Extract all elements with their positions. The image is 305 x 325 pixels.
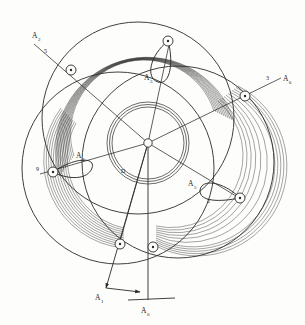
label-right-loop-index: 2 [207,198,210,204]
label-bottom-center: A 0 [141,306,150,317]
label-bottom-left-sub: 1 [101,299,104,304]
central-hub[interactable] [144,139,152,147]
figure-container: A 2 5 A 6 3 A 1 A 0 9 2 [0,0,305,325]
label-bottom-center-sub: 0 [147,312,150,317]
loop-label-top-sub: 3 [150,79,153,84]
node-n3[interactable] [240,91,250,101]
label-inner-ring: D [121,168,126,174]
node-n6[interactable] [115,239,125,249]
label-upper-left: A 2 [32,31,41,42]
diagonal-axis-arrow [106,143,148,288]
vertical-axis-tick [128,298,175,300]
axis-arrow-group [106,143,175,300]
label-upper-left-index: 5 [44,48,47,54]
label-right: A 6 [283,74,292,85]
loop-label-right: A 5 [188,179,197,190]
label-bottom-left: A 1 [95,293,104,304]
epicyclic-ring-diagram: A 2 5 A 6 3 A 1 A 0 9 2 [0,0,305,325]
node-n7[interactable] [48,167,58,177]
loop-label-right-sub: 5 [194,185,197,190]
node-n5[interactable] [148,242,158,252]
node-n2[interactable] [163,36,173,46]
node-n1[interactable] [66,65,76,75]
label-right-index: 3 [266,75,269,81]
radial-line-lower-right [148,143,241,199]
label-left-node: 9 [36,166,39,172]
diagonal-axis-pointer [106,288,140,292]
label-right-sub: 6 [289,80,292,85]
loop-group [53,41,240,200]
node-n4[interactable] [235,193,245,203]
radial-line-up-right [148,40,170,143]
hatched-band-lower-right [156,86,287,256]
label-upper-left-sub: 2 [38,37,41,42]
